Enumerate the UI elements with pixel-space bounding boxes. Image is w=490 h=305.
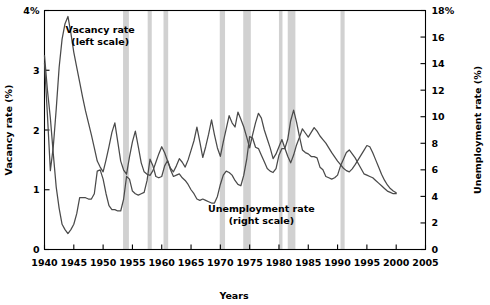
x-tick-label-1975: 1975 <box>236 257 262 268</box>
recession-band-2 <box>163 11 168 250</box>
y2-tick-label-16: 16 <box>432 32 446 43</box>
annotations-group: Vacancy rate(left scale)Unemployment rat… <box>66 24 315 226</box>
y2-tick-label-0: 0 <box>432 244 439 255</box>
y-tick-label-0: 0 <box>33 244 40 255</box>
dual-axis-line-chart: 1940194519501955196019651970197519801985… <box>0 0 490 305</box>
x-tick-label-1995: 1995 <box>354 257 380 268</box>
right-axis-title: Unemployment rate (%) <box>472 66 483 194</box>
unemployment-label: Unemployment rate <box>208 203 315 214</box>
y2-tick-label-2: 2 <box>432 217 439 228</box>
vacancy-label-scale-note: (left scale) <box>71 36 129 47</box>
y-tick-label-3: 3 <box>33 65 40 76</box>
recession-band-1 <box>148 11 152 250</box>
y2-tick-label-6: 6 <box>432 164 439 175</box>
recession-band-7 <box>341 11 345 250</box>
y2-tick-label-18: 18% <box>432 5 455 16</box>
x-tick-label-2005: 2005 <box>412 257 438 268</box>
y-tick-label-2: 2 <box>33 125 40 136</box>
y2-tick-label-10: 10 <box>432 111 446 122</box>
vacancy-label: Vacancy rate <box>66 24 135 35</box>
left-axis-title: Vacancy rate (%) <box>3 85 14 176</box>
y2-tick-label-12: 12 <box>432 85 445 96</box>
x-tick-label-1950: 1950 <box>90 257 117 268</box>
x-axis-tick-labels-group: 1940194519501955196019651970197519801985… <box>31 257 438 268</box>
x-axis-ticks-group <box>45 245 426 250</box>
y2-tick-label-14: 14 <box>432 58 446 69</box>
x-tick-label-1965: 1965 <box>178 257 204 268</box>
x-tick-label-1985: 1985 <box>295 257 321 268</box>
y-tick-label-4: 4% <box>23 5 40 16</box>
y-tick-label-1: 1 <box>33 184 40 195</box>
y2-tick-label-4: 4 <box>432 191 439 202</box>
unemployment-label-scale-note: (right scale) <box>229 215 294 226</box>
x-tick-label-1960: 1960 <box>149 257 176 268</box>
left-axis-tick-labels-group: 01234% <box>23 5 40 255</box>
x-tick-label-1990: 1990 <box>324 257 351 268</box>
right-axis-ticks-group <box>421 11 426 250</box>
x-tick-label-1955: 1955 <box>119 257 145 268</box>
x-tick-label-1940: 1940 <box>31 257 58 268</box>
x-tick-label-1970: 1970 <box>207 257 234 268</box>
x-tick-label-1945: 1945 <box>61 257 87 268</box>
x-tick-label-2000: 2000 <box>383 257 410 268</box>
x-axis-title: Years <box>218 290 249 301</box>
right-axis-tick-labels-group: 024681012141618% <box>432 5 455 255</box>
x-tick-label-1980: 1980 <box>266 257 293 268</box>
y2-tick-label-8: 8 <box>432 138 439 149</box>
chart-container: 1940194519501955196019651970197519801985… <box>0 0 490 305</box>
